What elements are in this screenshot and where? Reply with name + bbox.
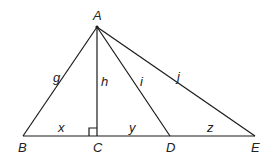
label-point-D: D [166, 140, 175, 155]
label-segment-x: x [57, 120, 65, 135]
apex-point-A [95, 25, 98, 28]
label-segment-i: i [140, 74, 144, 89]
label-segment-z: z [206, 120, 214, 135]
label-point-B: B [18, 140, 27, 155]
label-segment-g: g [53, 70, 61, 85]
right-angle-marker [89, 128, 97, 136]
label-segment-y: y [128, 120, 137, 135]
label-point-C: C [93, 140, 103, 155]
label-point-A: A [92, 8, 102, 23]
segment-j-AE [97, 27, 255, 136]
label-point-E: E [251, 140, 260, 155]
label-segment-h: h [101, 74, 108, 89]
triangle-diagram: A B C D E g h i j x y z [0, 0, 270, 163]
